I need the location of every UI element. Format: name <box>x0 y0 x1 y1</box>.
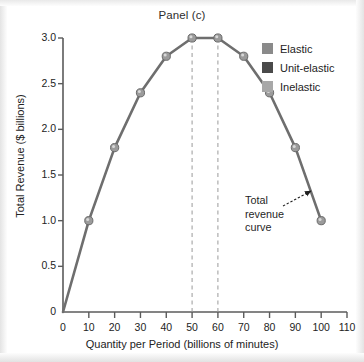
legend-swatch-unit-elastic <box>262 62 273 73</box>
legend-label-elastic: Elastic <box>280 43 312 55</box>
x-axis-ticks <box>89 312 347 318</box>
y-axis-title: Total Revenue ($ billions) <box>14 76 26 236</box>
legend-item-unit-elastic[interactable]: Unit-elastic <box>262 59 362 76</box>
x-tick-label: 110 <box>332 321 362 333</box>
legend-item-inelastic[interactable]: Inelastic <box>262 78 362 95</box>
chart-legend: Elastic Unit-elastic Inelastic <box>262 40 362 97</box>
legend-label-inelastic: Inelastic <box>280 81 320 93</box>
annotation-line-2: revenue <box>245 208 284 222</box>
legend-swatch-inelastic <box>262 81 273 92</box>
y-tick-label: 0 <box>14 305 56 317</box>
legend-swatch-elastic <box>262 43 273 54</box>
x-axis-title: Quantity per Period (billions of minutes… <box>0 338 364 350</box>
figure-panel-c: Panel (c) 00.51.01.52.02.53.0 0102030405… <box>0 0 364 362</box>
legend-label-unit-elastic: Unit-elastic <box>280 62 334 74</box>
y-tick-label: 3.0 <box>14 31 56 43</box>
reference-lines <box>192 38 218 312</box>
legend-item-elastic[interactable]: Elastic <box>262 40 362 57</box>
annotation-arrow <box>283 191 311 206</box>
total-revenue-curve-annotation: Total revenue curve <box>245 194 284 235</box>
annotation-line-3: curve <box>245 221 284 235</box>
y-tick-label: 0.5 <box>14 259 56 271</box>
annotation-line-1: Total <box>245 194 284 208</box>
